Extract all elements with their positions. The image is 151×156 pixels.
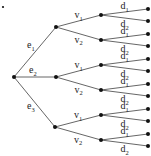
leaf-node: [146, 57, 150, 61]
label-e2-v2: v2: [75, 84, 83, 97]
leaf-node: [146, 44, 150, 48]
label-e3-v1: v1: [74, 109, 82, 122]
leaf-node: [146, 7, 150, 11]
leaf-node: [146, 119, 150, 123]
leaf-node: [146, 132, 150, 136]
node-e3-v2: [99, 138, 103, 142]
label-e2: e2: [29, 64, 37, 77]
tree-diagram: e1e2e3v1d1d2v2d1d2v1d1d2v2d1d2v1d1d2v2d1…: [0, 0, 151, 156]
node-e3: [53, 125, 57, 129]
leaf-node: [146, 32, 150, 36]
label-e1: e1: [27, 39, 35, 52]
label-d2: d2: [121, 143, 129, 156]
node-e1-v1: [99, 13, 103, 17]
label-e3: e3: [27, 100, 35, 113]
edge-e3: [14, 77, 55, 127]
label-e2-v1: v1: [75, 59, 83, 72]
tree-labels: e1e2e3v1d1d2v2d1d2v1d1d2v2d1d2v1d1d2v2d1…: [27, 0, 129, 156]
label-d1: d1: [121, 0, 129, 13]
leaf-node: [146, 144, 150, 148]
node-e2-v1: [99, 63, 103, 67]
label-e1-v2: v2: [75, 34, 83, 47]
label-e3-v2: v2: [74, 134, 82, 147]
node-e2-v2: [99, 88, 103, 92]
stray-dot: [2, 6, 4, 8]
leaf-node: [146, 69, 150, 73]
node-e1-v2: [99, 38, 103, 42]
leaf-node: [146, 19, 150, 23]
node-e2: [54, 75, 58, 79]
root-node: [12, 75, 16, 79]
leaf-node: [146, 94, 150, 98]
leaf-node: [146, 82, 150, 86]
leaf-node: [146, 107, 150, 111]
node-e1: [54, 25, 58, 29]
label-e1-v1: v1: [75, 9, 83, 22]
node-e3-v1: [99, 113, 103, 117]
